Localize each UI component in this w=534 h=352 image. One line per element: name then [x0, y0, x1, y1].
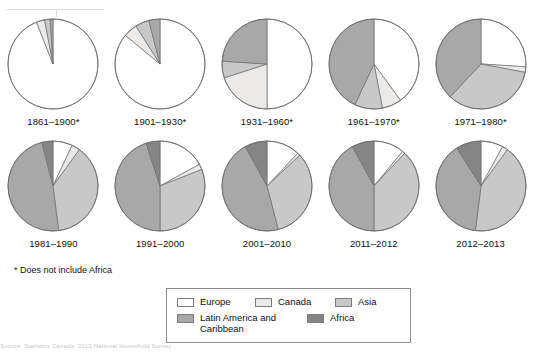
pie-chart [221, 140, 313, 232]
pie-chart-period-label: 2001–2010 [243, 238, 291, 249]
pie-chart [435, 140, 527, 232]
pie-chart-period-label: 2011–2012 [350, 238, 398, 249]
legend-label-asia: Asia [358, 296, 376, 307]
pie-chart-graphic [7, 18, 99, 110]
pie-chart [328, 18, 420, 110]
legend-item-latin-america: Latin America and Caribbean [177, 312, 307, 334]
pie-chart-cell: 2011–2012 [320, 140, 427, 249]
pie-chart [7, 140, 99, 232]
legend-item-canada: Canada [255, 296, 335, 307]
pie-slice-europe [481, 19, 526, 67]
pie-chart-row-top: 1861–1900*1901–1930*1931–1960*1961–1970*… [0, 18, 534, 127]
pie-chart-period-label: 1931–1960* [241, 116, 293, 127]
pie-chart-cell: 1971–1980* [427, 18, 534, 127]
pie-chart-cell: 1901–1930* [107, 18, 214, 127]
pie-chart-graphic [435, 140, 527, 232]
legend-label-canada: Canada [278, 296, 311, 307]
pie-chart [328, 140, 420, 232]
legend-item-europe: Europe [177, 296, 255, 307]
pie-chart [435, 18, 527, 110]
pie-chart-period-label: 1861–1900* [27, 116, 79, 127]
legend-swatch-latin-america [177, 314, 194, 323]
pie-chart-cell: 2012–2013 [427, 140, 534, 249]
legend-swatch-canada [255, 298, 272, 307]
pie-chart-period-label: 1961–1970* [348, 116, 400, 127]
scan-artifact-vertical [56, 9, 57, 17]
legend-label-europe: Europe [200, 296, 231, 307]
infographic-page: 1861–1900*1901–1930*1931–1960*1961–1970*… [0, 0, 534, 352]
legend: Europe Canada Asia Latin America and Car… [166, 288, 411, 343]
pie-slice-europe [267, 19, 312, 109]
pie-chart-graphic [221, 140, 313, 232]
pie-chart-period-label: 1901–1930* [134, 116, 186, 127]
pie-chart-cell: 1981–1990 [0, 140, 107, 249]
pie-chart-graphic [114, 18, 206, 110]
legend-swatch-europe [177, 298, 194, 307]
pie-chart-period-label: 1991–2000 [136, 238, 184, 249]
pie-chart-graphic [114, 140, 206, 232]
pie-chart-graphic [7, 140, 99, 232]
pie-chart-cell: 1991–2000 [107, 140, 214, 249]
pie-chart-graphic [221, 18, 313, 110]
pie-chart [114, 18, 206, 110]
pie-chart-cell: 1931–1960* [214, 18, 321, 127]
legend-swatch-africa [307, 314, 324, 323]
legend-swatch-asia [335, 298, 352, 307]
pie-chart [114, 140, 206, 232]
pie-chart [7, 18, 99, 110]
footnote: * Does not include Africa [14, 265, 112, 275]
pie-chart-cell: 2001–2010 [214, 140, 321, 249]
pie-chart-period-label: 2012–2013 [456, 238, 504, 249]
pie-slice-latin-america-and-caribbean [222, 19, 267, 64]
pie-chart-graphic [435, 18, 527, 110]
legend-label-africa: Africa [330, 312, 354, 323]
pie-chart-graphic [328, 140, 420, 232]
pie-chart-cell: 1961–1970* [320, 18, 427, 127]
pie-chart [221, 18, 313, 110]
pie-chart-cell: 1861–1900* [0, 18, 107, 127]
source-line: Source: Statistics Canada, 2013 National… [0, 343, 534, 352]
legend-row-1: Europe Canada Asia [177, 296, 402, 307]
legend-item-asia: Asia [335, 296, 376, 307]
legend-label-latin-america: Latin America and Caribbean [200, 312, 300, 334]
legend-row-2: Latin America and Caribbean Africa [177, 312, 402, 334]
legend-item-africa: Africa [307, 312, 354, 323]
pie-chart-period-label: 1981–1990 [29, 238, 77, 249]
pie-chart-row-bottom: 1981–19901991–20002001–20102011–20122012… [0, 140, 534, 249]
pie-chart-graphic [328, 18, 420, 110]
scan-artifact-horizontal [6, 9, 104, 10]
pie-chart-period-label: 1971–1980* [454, 116, 506, 127]
